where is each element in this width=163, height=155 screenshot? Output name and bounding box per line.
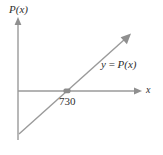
x-intercept-marker	[64, 89, 71, 94]
equation-rhs: P(x)	[118, 58, 137, 70]
function-graph-figure: P(x) x y = P(x) 730	[0, 0, 163, 155]
function-line	[19, 39, 125, 134]
x-axis-arrowhead	[134, 88, 142, 95]
x-intercept-label: 730	[59, 96, 76, 107]
x-axis-label: x	[146, 85, 150, 95]
y-axis-arrowhead	[15, 17, 22, 25]
graph-canvas	[0, 0, 163, 155]
function-line-arrowhead	[121, 34, 131, 45]
equation-label: y = P(x)	[101, 59, 137, 70]
y-axis-label: P(x)	[9, 4, 28, 15]
